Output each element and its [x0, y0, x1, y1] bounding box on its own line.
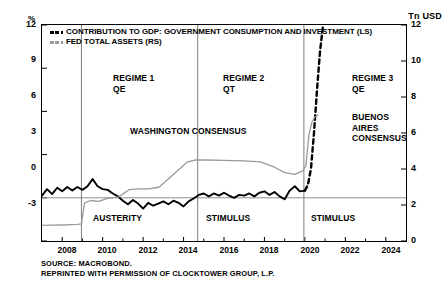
y-right-tick-2: 2: [411, 199, 435, 209]
annotation-washington-consensus: WASHINGTON CONSENSUS: [130, 126, 247, 137]
annotation-stimulus-1: STIMULUS: [206, 213, 250, 224]
x-tick-2008: 2008: [50, 245, 84, 255]
x-tick-2016: 2016: [212, 245, 246, 255]
y-left-tick-9: 9: [12, 54, 36, 64]
x-tick-2014: 2014: [171, 245, 205, 255]
source-line-2: REPRINTED WITH PERMISSION OF CLOCKTOWER …: [41, 269, 274, 279]
y-left-tick-0: 0: [12, 162, 36, 172]
y-right-tick-6: 6: [411, 127, 435, 137]
annotation-regime-1: REGIME 1 QE: [113, 73, 154, 94]
y-right-tick-10: 10: [411, 55, 435, 65]
chart-page: % Tn USD 12 9 6 3 0 -3 12 10 8 6 4 2 0 2…: [0, 0, 448, 293]
y-right-tick-12: 12: [411, 19, 435, 29]
y-left-tick-12: 12: [12, 19, 36, 29]
annotation-regime-2: REGIME 2 QT: [223, 73, 264, 94]
annotation-stimulus-2: STIMULUS: [311, 213, 355, 224]
y-right-tick-4: 4: [411, 163, 435, 173]
y-right-tick-0: 0: [411, 235, 435, 245]
y-left-tick-neg3: -3: [12, 198, 36, 208]
source-line-1: SOURCE: MACROBOND.: [41, 259, 274, 269]
legend-label-fed-total-assets: FED TOTAL ASSETS (RS): [66, 37, 162, 47]
legend: CONTRIBUTION TO GDP: GOVERNMENT CONSUMPT…: [50, 27, 372, 47]
legend-label-gdp-contribution: CONTRIBUTION TO GDP: GOVERNMENT CONSUMPT…: [66, 27, 372, 37]
x-tick-2018: 2018: [252, 245, 286, 255]
legend-item-gdp-contribution: CONTRIBUTION TO GDP: GOVERNMENT CONSUMPT…: [50, 27, 372, 37]
annotation-buenos-aires-consensus: BUENOS AIRES CONSENSUS: [352, 112, 407, 144]
x-tick-2020: 2020: [293, 245, 327, 255]
y-left-tick-6: 6: [12, 90, 36, 100]
x-tick-2010: 2010: [90, 245, 124, 255]
annotation-regime-3: REGIME 3 QE: [352, 73, 393, 94]
annotation-austerity: AUSTERITY: [93, 213, 142, 224]
legend-item-fed-total-assets: FED TOTAL ASSETS (RS): [50, 37, 372, 47]
x-tick-2024: 2024: [374, 245, 408, 255]
source-note: SOURCE: MACROBOND. REPRINTED WITH PERMIS…: [41, 259, 274, 279]
legend-swatch-black-dashed-icon: [50, 31, 63, 34]
y-right-tick-8: 8: [411, 91, 435, 101]
legend-swatch-gray-dashed-icon: [50, 41, 63, 44]
x-tick-2012: 2012: [131, 245, 165, 255]
y-left-tick-3: 3: [12, 126, 36, 136]
x-tick-2022: 2022: [333, 245, 367, 255]
